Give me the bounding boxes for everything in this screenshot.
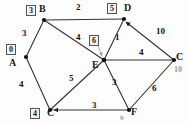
node-label-d: D	[124, 3, 131, 13]
distance-grey-c2: 10	[174, 66, 182, 74]
edge-weight-d-e: 1	[115, 33, 120, 42]
node-label-f: F	[131, 107, 137, 117]
edge-weight-a-b: 3	[22, 29, 27, 38]
edge-weight-c-e: 5	[69, 74, 74, 83]
edge-weight-b-d: 2	[76, 3, 81, 12]
edge-weight-e-c2: 4	[139, 48, 144, 57]
node-a[interactable]	[24, 55, 28, 59]
node-b[interactable]	[42, 18, 46, 22]
pointer-box6-to-e	[98, 46, 102, 56]
edge-weight-b-e: 4	[76, 33, 81, 42]
edge-b-d	[44, 19, 124, 20]
node-label-b: B	[39, 4, 46, 14]
node-layer	[24, 17, 176, 112]
node-label-c2: C	[176, 52, 183, 62]
node-label-e: E	[92, 60, 99, 70]
edge-a-b	[26, 20, 44, 57]
diagram-canvas: A B C D E C F 0 3 4 5 6 10 3 2 4 4 5 1 1…	[0, 0, 188, 125]
distance-box-e: 6	[89, 35, 99, 46]
edge-layer	[26, 19, 174, 110]
edge-d-e	[104, 19, 124, 60]
annotation-f-number: 9	[120, 114, 124, 122]
node-label-a: A	[9, 58, 16, 68]
edge-weight-f-c: 3	[92, 101, 97, 110]
edge-weight-a-c: 4	[19, 80, 24, 89]
edge-weight-e-f: 3	[112, 78, 117, 87]
node-label-c: C	[47, 108, 54, 118]
distance-box-d: 5	[107, 3, 117, 14]
distance-box-b: 3	[26, 5, 36, 16]
edge-weight-f-c2: 6	[152, 84, 157, 93]
edge-weight-c2-d: 10	[156, 27, 165, 36]
edge-c2-d-directed	[126, 22, 174, 60]
node-d[interactable]	[122, 17, 126, 21]
edge-a-c	[26, 57, 50, 110]
distance-box-c: 4	[30, 108, 40, 119]
node-e[interactable]	[102, 58, 107, 63]
distance-box-a: 0	[6, 44, 16, 55]
